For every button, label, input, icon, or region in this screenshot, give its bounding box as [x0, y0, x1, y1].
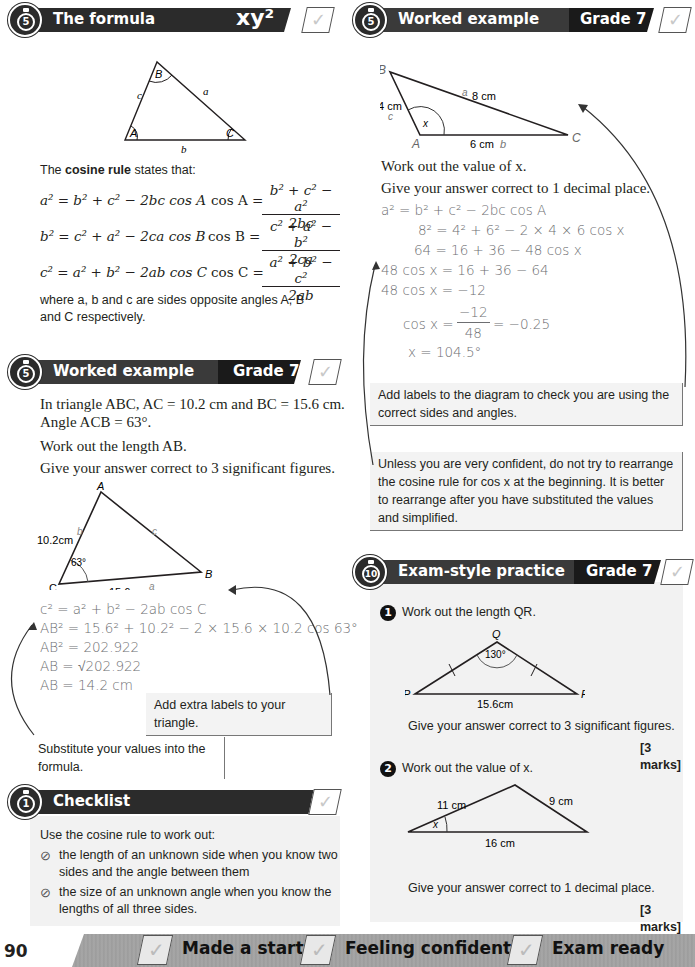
question-number-badge: 2 — [380, 761, 396, 777]
svg-text:Q: Q — [492, 628, 501, 640]
svg-text:c: c — [152, 526, 157, 537]
triangle-abc-diagram: A B C a b c — [115, 55, 255, 155]
rule-row: c² = a² + b² − 2ab cos C cos C = a² + b²… — [40, 254, 340, 290]
svg-text:10.2cm: 10.2cm — [37, 534, 73, 546]
worked-example-1-header: 5 Worked example Grade 7 ✓ — [8, 355, 338, 385]
progress-tick-box[interactable]: ✓ — [660, 559, 694, 585]
grade-badge: Grade 7 — [580, 10, 646, 28]
svg-text:a: a — [203, 85, 209, 97]
worked-example-2-header: 5 Worked example Grade 7 ✓ — [353, 3, 693, 33]
annotation-arrows-right — [345, 95, 695, 475]
timer-icon: 1 — [8, 785, 42, 819]
formula-header: 5 The formula xy² ✓ — [8, 3, 338, 33]
progress-footer: 90 ✓ Made a start ✓ Feeling confident ✓ … — [0, 932, 695, 967]
svg-text:R: R — [581, 688, 585, 700]
checklist-intro: Use the cosine rule to work out: — [40, 827, 340, 844]
svg-text:15.6cm: 15.6cm — [477, 698, 513, 708]
grade-badge: Grade 7 — [586, 562, 652, 580]
made-a-start-label: Made a start — [182, 938, 304, 958]
rule-row: b² = c² + a² − 2ca cos B cos B = c² + a²… — [40, 218, 340, 254]
svg-text:9 cm: 9 cm — [549, 795, 573, 807]
tip-substitute: Substitute your values into the formula. — [30, 737, 225, 779]
timer-icon: 10 — [353, 555, 387, 589]
made-a-start-checkbox[interactable]: ✓ — [137, 935, 173, 965]
progress-tick-box[interactable]: ✓ — [301, 7, 335, 33]
question-2: 2 Work out the value of x. — [380, 760, 533, 777]
svg-text:A: A — [129, 127, 137, 139]
annotation-arrows — [0, 550, 345, 740]
progress-tick-box[interactable]: ✓ — [308, 789, 342, 815]
svg-text:11 cm: 11 cm — [437, 799, 466, 811]
tick-icon: ✓ — [148, 938, 165, 962]
feeling-confident-label: Feeling confident — [345, 938, 511, 958]
question-2-marks: [3 marks] — [640, 902, 695, 936]
section-title: The formula — [53, 10, 155, 28]
svg-text:b: b — [181, 143, 187, 155]
section-title: Worked example — [53, 362, 194, 380]
section-title: Worked example — [398, 10, 539, 28]
timer-icon: 5 — [353, 3, 387, 37]
svg-text:B: B — [155, 68, 162, 80]
progress-tick-box[interactable]: ✓ — [658, 7, 692, 33]
svg-text:b: b — [77, 526, 83, 537]
exam-practice-header: 10 Exam-style practice Grade 7 ✓ — [353, 555, 693, 585]
progress-tick-box[interactable]: ✓ — [308, 359, 342, 385]
cosine-rule-list: a² = b² + c² − 2bc cos A cos A = b² + c²… — [40, 182, 340, 290]
tick-icon: ✓ — [518, 938, 535, 962]
triangle-x-diagram: x 11 cm 9 cm 16 cm — [405, 780, 605, 850]
formula-badge: xy² — [236, 5, 274, 30]
question-1-marks: [3 marks] — [640, 740, 695, 774]
tick-icon: ✓ — [311, 9, 326, 31]
worked-example-1-question: In triangle ABC, AC = 10.2 cm and BC = 1… — [40, 395, 345, 479]
question-number-badge: 1 — [380, 605, 396, 621]
page-number: 90 — [4, 941, 28, 961]
grade-badge: Grade 7 — [233, 362, 299, 380]
exam-ready-label: Exam ready — [552, 938, 664, 958]
svg-text:B: B — [380, 63, 386, 77]
tick-icon: ✓ — [318, 791, 333, 813]
svg-text:16 cm: 16 cm — [485, 837, 515, 849]
svg-text:x: x — [432, 819, 439, 830]
checklist-item: ⊘ the size of an unknown angle when you … — [40, 884, 340, 918]
tick-icon: ✓ — [311, 938, 328, 962]
svg-text:c: c — [137, 89, 142, 101]
question-1: 1 Work out the length QR. — [380, 604, 536, 621]
cosine-rule-intro: The cosine rule states that: — [40, 162, 196, 179]
timer-icon: 5 — [8, 355, 42, 389]
svg-text:P: P — [405, 688, 411, 700]
where-note: where a, b and c are sides opposite angl… — [40, 292, 315, 326]
tick-icon: ✓ — [670, 561, 685, 583]
exam-ready-checkbox[interactable]: ✓ — [507, 935, 543, 965]
rule-row: a² = b² + c² − 2bc cos A cos A = b² + c²… — [40, 182, 340, 218]
checklist-header: 1 Checklist ✓ — [8, 785, 338, 815]
triangle-pqr-diagram: Q P R 130° 15.6cm — [405, 628, 585, 708]
svg-text:C: C — [226, 127, 234, 139]
question-2-instruction: Give your answer correct to 1 decimal pl… — [408, 880, 655, 897]
svg-text:130°: 130° — [485, 649, 506, 660]
tick-icon: ✓ — [668, 9, 683, 31]
check-circle-icon: ⊘ — [40, 884, 51, 918]
svg-text:A: A — [96, 480, 104, 492]
timer-icon: 5 — [8, 3, 42, 37]
checklist-body: Use the cosine rule to work out: ⊘ the l… — [40, 827, 340, 918]
checklist-item: ⊘ the length of an unknown side when you… — [40, 847, 340, 881]
question-1-instruction: Give your answer correct to 3 significan… — [408, 718, 675, 735]
section-title: Checklist — [53, 792, 130, 810]
check-circle-icon: ⊘ — [40, 847, 51, 881]
feeling-confident-checkbox[interactable]: ✓ — [300, 935, 336, 965]
section-title: Exam-style practice — [398, 562, 565, 580]
tick-icon: ✓ — [318, 361, 333, 383]
